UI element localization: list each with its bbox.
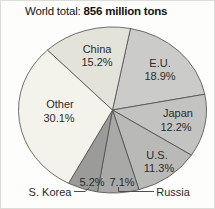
slice-label-china-value: 15.2% (81, 56, 112, 68)
slice-label-skorea-value: 5.2% (79, 176, 104, 188)
slice-label-other-value: 30.1% (43, 112, 74, 124)
callout-label-skorea: S. Korea (29, 186, 73, 198)
slice-label-us-name: U.S. (146, 149, 167, 161)
slice-label-china-name: China (83, 43, 113, 55)
pie-chart-figure: World total: 856 million tons E.U.18.9%J… (0, 0, 215, 209)
slice-label-eu-value: 18.9% (144, 70, 175, 82)
slice-label-japan-value: 12.2% (160, 121, 191, 133)
slice-label-us-value: 11.3% (144, 162, 175, 174)
slice-label-russia-value: 7.1% (109, 176, 134, 188)
slice-label-other-name: Other (46, 98, 74, 110)
slice-label-japan-name: Japan (163, 107, 193, 119)
pie-chart: E.U.18.9%Japan12.2%U.S.11.3%7.1%Russia5.… (1, 1, 215, 209)
callout-label-russia: Russia (156, 186, 191, 198)
slice-label-eu-name: E.U. (149, 57, 170, 69)
